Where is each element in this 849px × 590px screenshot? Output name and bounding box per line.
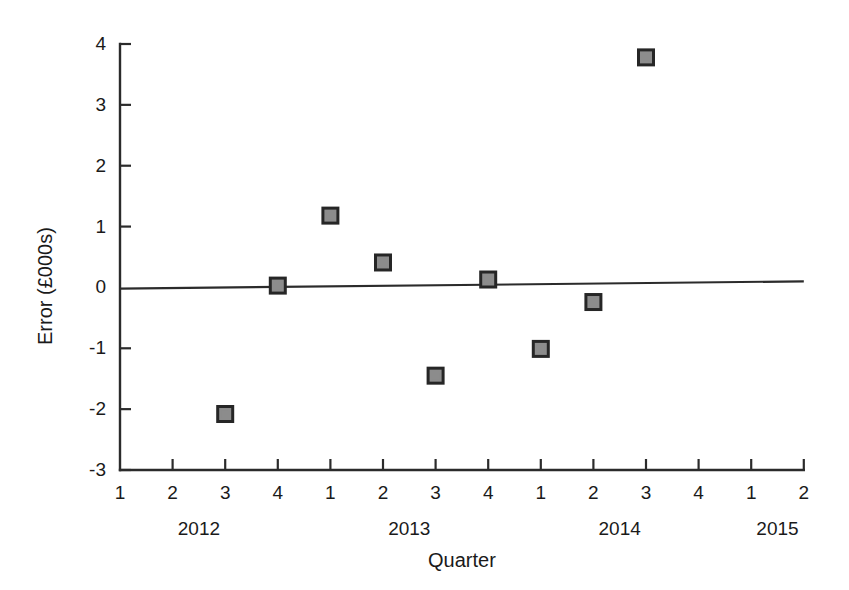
y-axis-tick-label: 2: [60, 155, 106, 177]
y-axis-tick-label: 3: [60, 94, 106, 116]
marker-inner: [380, 259, 387, 266]
x-axis-year-label: 2015: [756, 518, 798, 540]
x-axis-tick-label: 4: [693, 482, 704, 504]
data-point-marker: [586, 295, 601, 310]
y-axis-title: Error (£000s): [34, 227, 57, 345]
data-point-marker: [481, 272, 496, 287]
marker-inner: [643, 54, 650, 61]
marker-inner: [222, 411, 229, 418]
x-axis-tick-label: 2: [167, 482, 178, 504]
y-axis-tick-label: -2: [60, 398, 106, 420]
x-axis-tick-label: 1: [325, 482, 336, 504]
x-axis-tick-label: 3: [641, 482, 652, 504]
x-axis-tick-label: 2: [588, 482, 599, 504]
trend-line: [120, 281, 804, 288]
x-axis-tick-label: 3: [220, 482, 231, 504]
x-axis-tick-label: 4: [273, 482, 284, 504]
x-axis-title: Quarter: [428, 549, 496, 572]
marker-inner: [432, 372, 439, 379]
x-axis-year-label: 2014: [599, 518, 641, 540]
marker-inner: [274, 282, 281, 289]
x-axis-tick-label: 3: [430, 482, 441, 504]
data-point-marker: [376, 255, 391, 270]
y-axis-tick-label: 4: [60, 33, 106, 55]
scatter-chart: 43210-1-2-312341234123412201220132014201…: [0, 0, 849, 590]
marker-inner: [590, 299, 597, 306]
y-axis-tick-label: 1: [60, 216, 106, 238]
y-axis-tick-label: 0: [60, 276, 106, 298]
marker-inner: [485, 276, 492, 283]
y-axis-tick-label: -3: [60, 459, 106, 481]
marker-inner: [327, 212, 334, 219]
data-point-marker: [323, 208, 338, 223]
data-point-marker: [639, 50, 654, 65]
data-point-marker: [428, 368, 443, 383]
x-axis-tick-label: 1: [746, 482, 757, 504]
x-axis-year-label: 2012: [178, 518, 220, 540]
y-axis-tick-label: -1: [60, 337, 106, 359]
x-axis-tick-label: 4: [483, 482, 494, 504]
plot-area: [0, 0, 849, 590]
data-point-marker: [533, 341, 548, 356]
data-point-marker: [218, 407, 233, 422]
x-axis-year-label: 2013: [388, 518, 430, 540]
marker-inner: [537, 345, 544, 352]
data-point-marker: [270, 278, 285, 293]
x-axis-tick-label: 2: [799, 482, 810, 504]
x-axis-tick-label: 1: [536, 482, 547, 504]
x-axis-tick-label: 2: [378, 482, 389, 504]
x-axis-tick-label: 1: [115, 482, 126, 504]
